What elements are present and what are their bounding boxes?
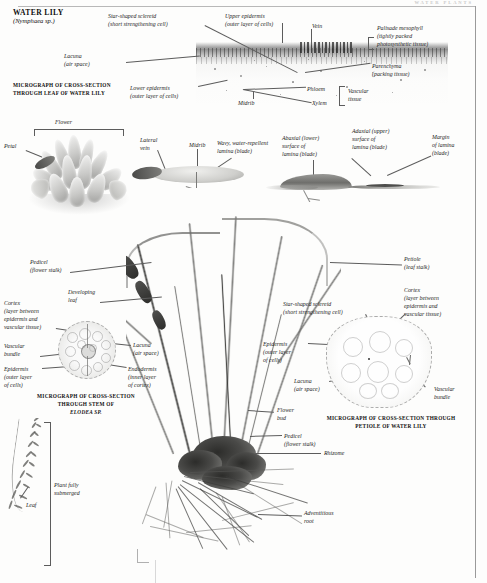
page-title-text: WATER LILY	[13, 8, 64, 17]
label-lateral-vein: Lateral vein	[140, 136, 157, 152]
label-cortex-stem: Cortex (layer between epidermis and vasc…	[4, 299, 41, 332]
reference-page: WATER PLANTS WATER LILY (Nymphaea sp.) S…	[0, 0, 487, 583]
stem-cross-section-micrograph	[58, 321, 116, 379]
caption-stem-line3: ELODEA SP.	[70, 409, 102, 415]
label-flower: Flower	[55, 118, 72, 126]
water-lily-flower-photo	[28, 133, 130, 215]
label-parenchyma: Parenchyma (packing tissue)	[372, 62, 409, 78]
caption-leaf-micrograph: MICROGRAPH OF CROSS-SECTION THROUGH LEAF…	[13, 82, 111, 98]
page-subtitle: (Nymphaea sp.)	[13, 17, 64, 25]
label-epidermis-petiole: Epidermis (outer layer of cells)	[263, 340, 291, 364]
label-rhizome: Rhizome	[324, 449, 344, 457]
vein-region	[300, 42, 352, 53]
caption-leaf-line1: MICROGRAPH OF CROSS-SECTION	[13, 82, 111, 88]
label-leaf-elodea: Leaf	[26, 501, 36, 509]
page-title: WATER LILY (Nymphaea sp.)	[13, 8, 64, 26]
label-vascular-bundle-petiole: Vascular bundle	[434, 385, 455, 401]
leaf-underside-photo	[262, 168, 448, 202]
caption-leaf-line2: THROUGH LEAF OF WATER LILY	[13, 90, 105, 96]
label-adaxial: Adaxial (upper) surface of lamina (blade…	[352, 127, 389, 151]
palisade-band	[196, 57, 448, 64]
label-endodermis: Endodermis (inner layer of cortex)	[128, 365, 156, 389]
floating-leaf-photo	[130, 158, 246, 188]
label-adventitious-root: Adventitious root	[304, 509, 333, 525]
label-abaxial: Abaxial (lower) surface of lamina (blade…	[282, 134, 319, 158]
label-upper-epidermis: Upper epidermis (outer layer of cells)	[225, 12, 273, 28]
label-developing-leaf: Developing leaf	[68, 288, 95, 304]
caption-petiole-micrograph: MICROGRAPH OF CROSS-SECTION THROUGH PETI…	[302, 415, 480, 431]
stem-vascular-core	[81, 344, 96, 359]
running-head: WATER PLANTS	[414, 0, 473, 5]
label-vascular-bundle-stem: Vascular bundle	[4, 342, 25, 358]
caption-stem-line2: THROUGH STEM OF	[58, 401, 114, 407]
label-phloem: Phloem	[307, 85, 325, 93]
label-star-sclereid-top: Star-shaped sclereid (short strengthenin…	[108, 12, 168, 28]
label-lower-epidermis: Lower epidermis (outer layer of cells)	[130, 84, 178, 100]
label-flower-bud: Flower bud	[277, 406, 294, 422]
label-pedicel-upper: Pedicel (flower stalk)	[30, 258, 62, 274]
bracket-palisade	[368, 37, 374, 50]
label-petal: Petal	[4, 142, 16, 150]
caption-stem-micrograph: MICROGRAPH OF CROSS-SECTION THROUGH STEM…	[16, 393, 156, 417]
label-petiole: Petiole (leaf stalk)	[404, 255, 429, 271]
label-xylem: Xylem	[312, 99, 327, 107]
bracket-vascular-tissue	[339, 86, 345, 106]
label-lacuna-petiole: Lacuna (air space)	[294, 377, 320, 393]
label-cortex-petiole: Cortex (layer between epidermis and vasc…	[404, 286, 441, 319]
label-lacuna-stem: Lacuna (air space)	[133, 341, 159, 357]
page-rule-top	[18, 6, 476, 7]
leader-vein	[311, 29, 312, 45]
label-margin: Margin of lamina (blade)	[432, 133, 454, 157]
label-midrib-top: Midrib	[238, 99, 254, 107]
label-epidermis-stem: Epidermis (outer layer of cells)	[4, 365, 32, 389]
caption-petiole-line2: PETIOLE OF WATER LILY	[355, 423, 426, 429]
label-vascular-tissue: Vascular tissue	[348, 87, 369, 103]
label-midrib-mid: Midrib	[189, 141, 205, 149]
bracket-plant-submerged	[44, 422, 51, 566]
label-sclereid-petiole: Star-shaped sclereid (short strengthenin…	[283, 300, 343, 316]
page-rule-right	[475, 6, 476, 578]
label-palisade-mesophyll: Palisade mesophyll (tightly packed photo…	[377, 24, 428, 48]
label-wavy-lamina: Wavy, water-repellent lamina (blade)	[217, 139, 268, 155]
petiole-cross-section-micrograph	[326, 316, 432, 408]
leader-upper-epidermis	[282, 23, 283, 43]
label-plant-submerged: Plant fully submerged	[54, 481, 80, 497]
label-pedicel-lower: Pedicel (flower stalk)	[284, 432, 316, 448]
caption-petiole-line1: MICROGRAPH OF CROSS-SECTION THROUGH	[327, 415, 456, 421]
leader-lacuna-top	[126, 56, 200, 63]
leader-midrib-top	[253, 92, 254, 99]
leader-rhizome	[255, 453, 321, 454]
label-vein: Vein	[312, 22, 322, 30]
caption-stem-line1: MICROGRAPH OF CROSS-SECTION	[37, 393, 135, 399]
label-lacuna-top: Lacuna (air space)	[64, 52, 90, 68]
